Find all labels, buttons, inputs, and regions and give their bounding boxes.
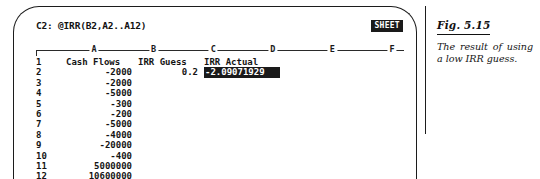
selected-cell[interactable]: -2.09071929 xyxy=(204,67,280,77)
column-c-header[interactable]: IRR Actual xyxy=(204,57,278,67)
cell-b[interactable]: 0.2 xyxy=(136,67,198,77)
formula-bar: C2: @IRR(B2,A2..A12) xyxy=(36,20,146,31)
cell-a[interactable]: -300 xyxy=(54,99,132,109)
table-row[interactable]: 9-20000 xyxy=(36,140,414,150)
table-row[interactable]: 3-2000 xyxy=(36,78,414,88)
column-header-ruler: ABCDEF xyxy=(36,46,404,55)
cell-a[interactable]: -200 xyxy=(54,109,132,119)
table-row[interactable]: 115000000 xyxy=(36,161,414,171)
cell-a[interactable]: -20000 xyxy=(54,140,132,150)
status-badge: SHEET xyxy=(371,20,403,32)
figure-caption-text: The result of using a low IRR guess. xyxy=(437,41,533,66)
column-header-a[interactable]: A xyxy=(89,44,98,54)
spreadsheet-grid[interactable]: 1Cash FlowsIRR GuessIRR Actual2-20000.2-… xyxy=(36,57,414,179)
row-number[interactable]: 2 xyxy=(36,67,52,77)
caption-divider xyxy=(425,6,426,134)
table-row[interactable]: 5-300 xyxy=(36,99,414,109)
spreadsheet-screen: C2: @IRR(B2,A2..A12) SHEET ABCDEF 1Cash … xyxy=(14,7,416,179)
row-number[interactable]: 5 xyxy=(36,99,52,109)
row-number[interactable]: 9 xyxy=(36,140,52,150)
ruler-left-tick xyxy=(36,50,37,56)
row-number[interactable]: 3 xyxy=(36,78,52,88)
table-row[interactable]: 8-4000 xyxy=(36,130,414,140)
table-row[interactable]: 1210600000 xyxy=(36,171,414,179)
cell-a[interactable]: -2000 xyxy=(54,78,132,88)
cell-a[interactable]: -2000 xyxy=(54,67,132,77)
cell-a[interactable]: -5000 xyxy=(54,119,132,129)
column-header-e[interactable]: E xyxy=(328,44,337,54)
spreadsheet-screen-frame: C2: @IRR(B2,A2..A12) SHEET ABCDEF 1Cash … xyxy=(13,6,417,179)
row-number[interactable]: 1 xyxy=(36,57,52,67)
table-row[interactable]: 6-200 xyxy=(36,109,414,119)
table-row[interactable]: 7-5000 xyxy=(36,119,414,129)
column-header-b[interactable]: B xyxy=(149,44,158,54)
row-number[interactable]: 7 xyxy=(36,119,52,129)
cell-a[interactable]: -4000 xyxy=(54,130,132,140)
table-row[interactable]: 10-400 xyxy=(36,151,414,161)
row-number[interactable]: 8 xyxy=(36,130,52,140)
cell-a[interactable]: -400 xyxy=(54,151,132,161)
row-number[interactable]: 10 xyxy=(36,151,52,161)
row-number[interactable]: 4 xyxy=(36,88,52,98)
cell-a[interactable]: 5000000 xyxy=(54,161,132,171)
table-row[interactable]: 1Cash FlowsIRR GuessIRR Actual xyxy=(36,57,414,67)
column-header-c[interactable]: C xyxy=(209,44,218,54)
table-row[interactable]: 4-5000 xyxy=(36,88,414,98)
table-row[interactable]: 2-20000.2-2.09071929 xyxy=(36,67,414,77)
figure-number: Fig. 5.15 xyxy=(437,19,490,35)
row-number[interactable]: 12 xyxy=(36,171,52,179)
column-b-header[interactable]: IRR Guess xyxy=(136,57,200,67)
column-header-d[interactable]: D xyxy=(268,44,277,54)
column-a-header[interactable]: Cash Flows xyxy=(54,57,132,67)
figure-caption: Fig. 5.15 The result of using a low IRR … xyxy=(437,14,533,66)
cell-a[interactable]: -5000 xyxy=(54,88,132,98)
row-number[interactable]: 11 xyxy=(36,161,52,171)
row-number[interactable]: 6 xyxy=(36,109,52,119)
cell-a[interactable]: 10600000 xyxy=(54,171,132,179)
column-header-f[interactable]: F xyxy=(387,44,396,54)
